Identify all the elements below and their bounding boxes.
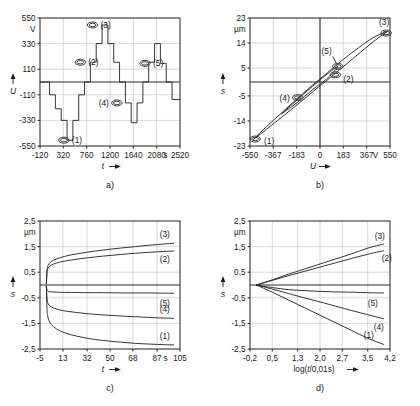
y-axis-unit: µm [234,228,246,237]
x-axis-unit: s [163,151,167,160]
panel-label: d) [316,383,324,393]
x-tick-label: 2520 [171,151,190,160]
y-tick-label: -330 [19,116,36,125]
x-tick-label: 3,5 [362,354,374,363]
y-tick-label: -0,5 [231,294,246,303]
y-tick-label: 2,5 [24,217,36,226]
x-axis-title: log(t/0,01s) [294,365,335,374]
curve-label: (4) [160,304,170,314]
x-axis-title: t [102,161,105,171]
marker-label: (4) [279,93,289,103]
marker-label: (3) [379,17,389,27]
x-tick-label: -183 [289,151,306,160]
marker-label: (1) [72,135,82,145]
x-tick-label: 50 [105,354,115,363]
curve-label: (1) [160,331,170,341]
panel-d-plot: 2,51,50,5-0,5-1,5-2,5µm-0,20,51,32,02,73… [210,203,420,406]
y-axis-title: U [10,86,17,96]
y-tick-label: -110 [20,91,36,100]
marker-label: (3) [101,20,111,30]
y-tick-label: 550 [22,14,36,23]
x-tick-label: -0,2 [243,354,258,363]
y-tick-label: -1,5 [231,319,246,328]
y-tick-label: 1,5 [234,243,246,252]
y-tick-label: -1,5 [21,319,36,328]
marker-label: (2) [343,74,353,84]
x-tick-label: -367 [265,151,282,160]
x-tick-label: 4,2 [384,354,396,363]
x-axis-unit: V [373,151,379,160]
x-tick-label: -550 [242,151,259,160]
x-tick-label: 32 [83,354,93,363]
marker-label: (2) [88,57,98,67]
x-tick-label: 550 [383,151,397,160]
panel-c-plot: 2,51,50,5-0,5-1,5-2,5µm-51332506887105st… [0,203,210,406]
curve-label: (5) [368,298,378,308]
y-tick-label: -2,5 [21,345,36,354]
x-axis-unit: s [163,354,167,363]
x-tick-label: 0 [318,151,323,160]
y-tick-label: 0,5 [234,268,246,277]
x-tick-label: 1200 [101,151,120,160]
panel-d: 2,51,50,5-0,5-1,5-2,5µm-0,20,51,32,02,73… [210,203,420,406]
x-tick-label: 87 [153,354,163,363]
x-tick-label: -120 [32,151,49,160]
y-tick-label: 110 [22,65,35,74]
y-tick-label: 2,5 [234,217,246,226]
x-tick-label: -5 [36,354,44,363]
marker-label: (5) [322,46,332,56]
panel-label: b) [316,180,324,190]
y-axis-title: s [221,86,226,96]
marker-label: (1) [264,136,274,146]
marker-label: (4) [99,98,109,108]
y-tick-label: 14 [236,39,246,48]
marker-label: (5) [153,58,163,68]
curve-label: (1) [364,330,374,340]
x-tick-label: 0,5 [267,354,279,363]
y-tick-label: -0,5 [21,294,36,303]
curve-label: (3) [375,231,385,241]
y-tick-label: -5 [238,92,246,101]
panel-a: 550330110-110-330-550V-12032076012001640… [0,0,210,203]
x-tick-label: 760 [80,151,94,160]
panel-label: a) [106,180,114,190]
panel-label: c) [106,383,114,393]
y-axis-unit: V [30,25,36,34]
figure-container: 550330110-110-330-550V-12032076012001640… [0,0,420,406]
x-tick-label: 320 [56,151,70,160]
curve-label: (2) [382,253,392,263]
x-tick-label: 183 [336,151,350,160]
panel-b-plot: 23145-5-14-23µm-550-367-1830183367550VUs… [210,0,420,203]
x-axis-title: t [102,364,105,374]
y-axis-title: s [221,289,226,299]
x-tick-label: 13 [58,354,68,363]
y-tick-label: 330 [22,40,36,49]
x-tick-label: 105 [173,354,187,363]
y-tick-label: -14 [234,117,246,126]
y-axis-title: s [11,289,16,299]
x-tick-label: 1640 [124,151,143,160]
y-tick-label: 5 [241,64,246,73]
panel-b: 23145-5-14-23µm-550-367-1830183367550VUs… [210,0,420,203]
curve-label: (2) [160,254,170,264]
y-axis-unit: µm [24,228,36,237]
x-tick-label: 1,3 [292,354,304,363]
curve-label: (4) [374,322,384,332]
panel-a-plot: 550330110-110-330-550V-12032076012001640… [0,0,210,203]
x-tick-label: 68 [128,354,138,363]
x-axis-title: U [310,161,317,171]
y-tick-label: 0,5 [24,268,36,277]
y-tick-label: 23 [236,14,246,23]
x-tick-label: 2,0 [314,354,326,363]
y-tick-label: 1,5 [24,243,36,252]
y-axis-unit: µm [234,25,246,34]
curve-label: (3) [160,229,170,239]
panel-c: 2,51,50,5-0,5-1,5-2,5µm-51332506887105st… [0,203,210,406]
x-tick-label: 2,7 [337,354,349,363]
